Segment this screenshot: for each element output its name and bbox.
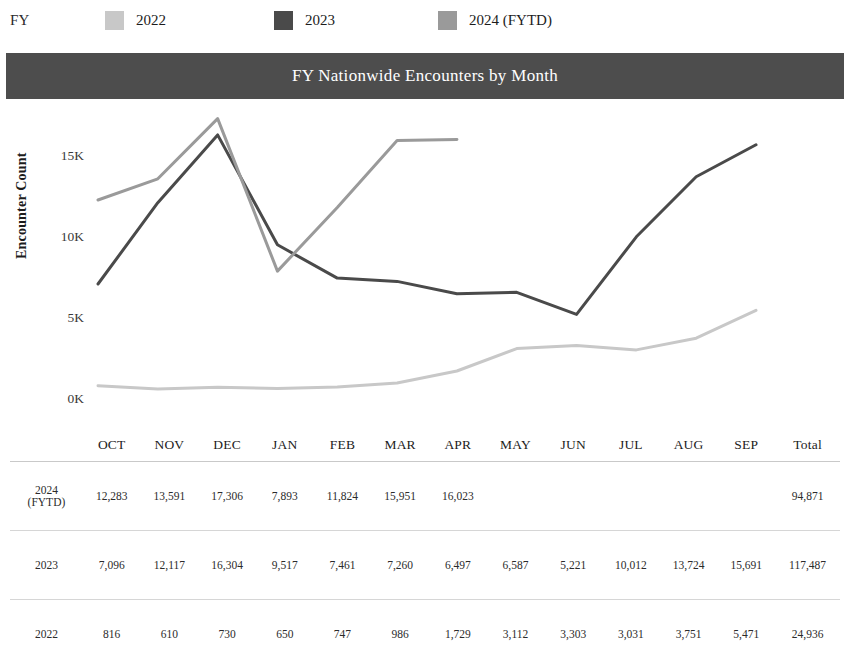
table-cell: 610 xyxy=(141,600,199,669)
legend-label-2023: 2023 xyxy=(305,12,335,29)
chart-legend: FY 2022 2023 2024 (FYTD) xyxy=(0,0,850,40)
table-cell: 7,893 xyxy=(256,462,314,531)
table-cell: 17,306 xyxy=(198,462,256,531)
legend-label-2022: 2022 xyxy=(136,12,166,29)
data-table-area: OCTNOVDECJANFEBMARAPRMAYJUNJULAUGSEPTota… xyxy=(0,429,850,668)
table-cell xyxy=(660,462,718,531)
legend-swatch-2022-icon xyxy=(105,11,124,30)
table-cell: 1,729 xyxy=(429,600,487,669)
legend-swatch-2023-icon xyxy=(274,11,293,30)
table-column-header-sep: SEP xyxy=(717,429,775,462)
legend-item-2023[interactable]: 2023 xyxy=(274,11,335,30)
table-cell xyxy=(544,462,602,531)
table-corner-cell xyxy=(10,429,83,462)
table-row-label: 2022 xyxy=(10,600,83,669)
table-column-header-feb: FEB xyxy=(314,429,372,462)
table-cell: 10,012 xyxy=(602,531,660,600)
chart-svg xyxy=(92,99,840,429)
table-column-header-mar: MAR xyxy=(371,429,429,462)
table-cell: 816 xyxy=(83,600,141,669)
table-cell: 986 xyxy=(371,600,429,669)
table-cell: 3,303 xyxy=(544,600,602,669)
table-cell xyxy=(487,462,545,531)
y-axis-ticks: 0K5K10K15K xyxy=(28,99,84,429)
table-cell xyxy=(602,462,660,531)
table-column-header-apr: APR xyxy=(429,429,487,462)
table-column-header-jan: JAN xyxy=(256,429,314,462)
series-line-2024-fytd- xyxy=(98,119,457,272)
table-cell: 16,023 xyxy=(429,462,487,531)
table-cell: 13,724 xyxy=(660,531,718,600)
table-cell: 3,751 xyxy=(660,600,718,669)
y-tick-0K: 0K xyxy=(40,391,84,407)
table-cell: 15,951 xyxy=(371,462,429,531)
series-line-2022 xyxy=(98,310,756,389)
table-row: 20228166107306507479861,7293,1123,3033,0… xyxy=(10,600,840,669)
table-cell: 12,117 xyxy=(141,531,199,600)
table-cell: 5,221 xyxy=(544,531,602,600)
table-column-header-nov: NOV xyxy=(141,429,199,462)
legend-item-2024[interactable]: 2024 (FYTD) xyxy=(438,11,552,30)
line-chart: Encounter Count 0K5K10K15K xyxy=(0,99,850,429)
table-cell: 730 xyxy=(198,600,256,669)
chart-title-bar: FY Nationwide Encounters by Month xyxy=(6,53,844,99)
table-header-row: OCTNOVDECJANFEBMARAPRMAYJUNJULAUGSEPTota… xyxy=(10,429,840,462)
table-column-header-jun: JUN xyxy=(544,429,602,462)
table-row-label: 2024(FYTD) xyxy=(10,462,83,531)
table-cell-total: 94,871 xyxy=(775,462,840,531)
table-column-header-aug: AUG xyxy=(660,429,718,462)
table-cell: 5,471 xyxy=(717,600,775,669)
table-header: OCTNOVDECJANFEBMARAPRMAYJUNJULAUGSEPTota… xyxy=(10,429,840,462)
table-row: 20237,09612,11716,3049,5177,4617,2606,49… xyxy=(10,531,840,600)
y-tick-10K: 10K xyxy=(40,229,84,245)
table-cell: 7,461 xyxy=(314,531,372,600)
table-cell: 3,031 xyxy=(602,600,660,669)
legend-label-2024: 2024 (FYTD) xyxy=(469,12,552,29)
legend-swatch-2024-icon xyxy=(438,11,457,30)
table-column-header-dec: DEC xyxy=(198,429,256,462)
table-row: 2024(FYTD)12,28313,59117,3067,89311,8241… xyxy=(10,462,840,531)
legend-title: FY xyxy=(10,12,105,29)
table-cell: 15,691 xyxy=(717,531,775,600)
table-cell: 3,112 xyxy=(487,600,545,669)
table-column-header-jul: JUL xyxy=(602,429,660,462)
table-cell: 7,096 xyxy=(83,531,141,600)
table-cell: 6,587 xyxy=(487,531,545,600)
table-cell: 16,304 xyxy=(198,531,256,600)
table-column-header-oct: OCT xyxy=(83,429,141,462)
table-cell: 12,283 xyxy=(83,462,141,531)
table-row-label: 2023 xyxy=(10,531,83,600)
y-tick-15K: 15K xyxy=(40,148,84,164)
table-cell: 7,260 xyxy=(371,531,429,600)
table-column-header-total: Total xyxy=(775,429,840,462)
table-cell: 11,824 xyxy=(314,462,372,531)
chart-title: FY Nationwide Encounters by Month xyxy=(292,66,558,86)
table-cell: 747 xyxy=(314,600,372,669)
table-row-label-sub: (FYTD) xyxy=(10,496,83,508)
table-cell: 9,517 xyxy=(256,531,314,600)
table-cell-total: 117,487 xyxy=(775,531,840,600)
y-tick-5K: 5K xyxy=(40,310,84,326)
data-table: OCTNOVDECJANFEBMARAPRMAYJUNJULAUGSEPTota… xyxy=(10,429,840,668)
table-body: 2024(FYTD)12,28313,59117,3067,89311,8241… xyxy=(10,462,840,669)
series-line-2023 xyxy=(98,135,756,315)
table-cell: 13,591 xyxy=(141,462,199,531)
table-cell: 650 xyxy=(256,600,314,669)
table-cell xyxy=(717,462,775,531)
table-cell: 6,497 xyxy=(429,531,487,600)
table-column-header-may: MAY xyxy=(487,429,545,462)
chart-plot-area xyxy=(92,99,840,429)
table-cell-total: 24,936 xyxy=(775,600,840,669)
legend-item-2022[interactable]: 2022 xyxy=(105,11,166,30)
